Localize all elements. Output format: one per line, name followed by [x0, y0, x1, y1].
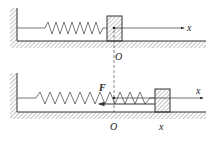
- floor-hatch: [10, 112, 206, 119]
- origin-dot: [113, 97, 116, 100]
- spring-diagram: x O x F O x: [0, 0, 212, 141]
- wall-hatch: [10, 73, 17, 112]
- spring: [17, 22, 107, 34]
- floor-hatch: [10, 41, 206, 48]
- bottom-panel: x F O x: [10, 73, 206, 132]
- x-axis-label: x: [195, 85, 201, 96]
- displacement-label: x: [158, 121, 164, 132]
- origin-label: O: [110, 121, 117, 132]
- force-label: F: [98, 82, 106, 93]
- x-axis-label: x: [186, 22, 192, 33]
- wall-hatch: [10, 8, 17, 41]
- top-panel: x O: [10, 8, 206, 62]
- block: [155, 89, 170, 112]
- origin-label: O: [115, 51, 122, 62]
